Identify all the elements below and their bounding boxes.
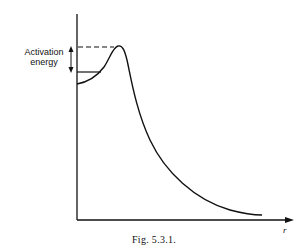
energy-diagram [0, 0, 308, 252]
activation-label-line2: energy [20, 57, 68, 67]
activation-label-line1: Activation [20, 47, 68, 57]
x-axis-label: r [283, 225, 287, 235]
activation-energy-label: Activation energy [20, 47, 68, 67]
figure-caption: Fig. 5.3.1. [132, 234, 176, 245]
arrow-down-icon [69, 67, 74, 73]
arrow-up-icon [69, 46, 74, 52]
x-axis-arrow-icon [285, 217, 294, 223]
energy-curve [77, 46, 262, 215]
